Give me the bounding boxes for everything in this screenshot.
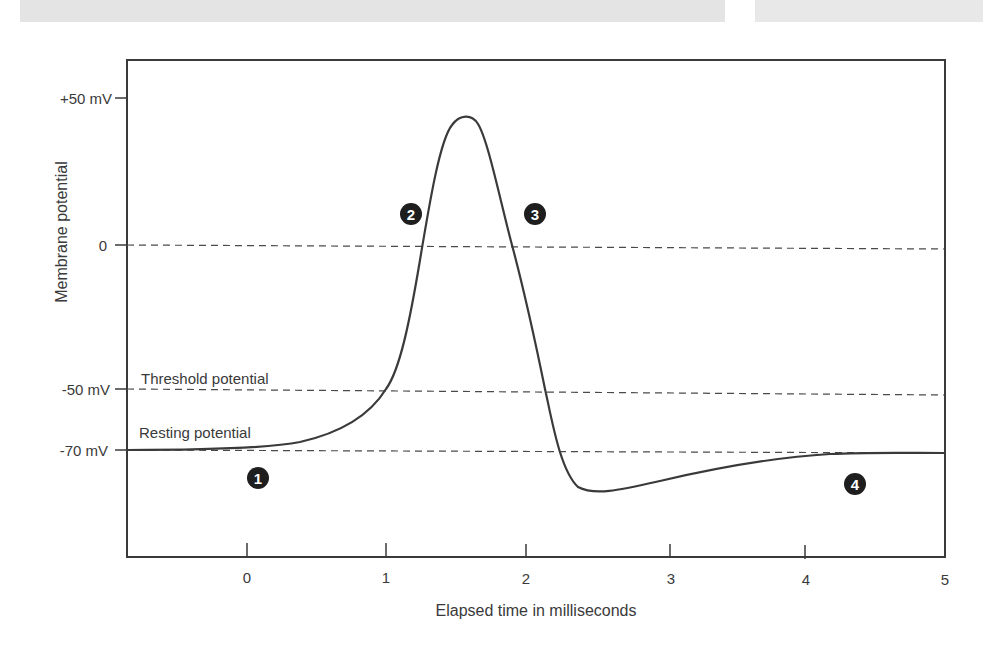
marker-3: 3 (524, 203, 546, 225)
marker-2-label: 2 (407, 206, 415, 223)
x-tick-label-3: 3 (667, 570, 675, 587)
x-tick-label-1: 1 (382, 569, 390, 586)
marker-1: 1 (247, 467, 269, 489)
marker-2: 2 (400, 203, 422, 225)
y-tick-label-minus70: -70 mV (60, 442, 108, 459)
x-tick-label-4: 4 (802, 571, 810, 588)
action-potential-chart: +50 mV 0 -50 mV -70 mV 0 1 2 3 4 5 Elaps… (0, 0, 983, 648)
y-tick-label-zero: 0 (99, 237, 107, 254)
zero-line (127, 245, 945, 249)
threshold-label: Threshold potential (141, 370, 269, 387)
threshold-line (127, 389, 945, 395)
x-tick-label-2: 2 (522, 570, 530, 587)
marker-4: 4 (844, 473, 866, 495)
resting-line (127, 450, 945, 453)
marker-3-label: 3 (531, 206, 539, 223)
marker-1-label: 1 (254, 470, 262, 487)
y-tick-label-plus50: +50 mV (60, 90, 112, 107)
y-tick-label-minus50: -50 mV (62, 381, 110, 398)
y-axis-title: Membrane potential (53, 161, 70, 302)
x-tick-label-0: 0 (243, 569, 251, 586)
x-tick-label-5: 5 (941, 571, 949, 588)
marker-4-label: 4 (851, 476, 860, 493)
x-axis-title: Elapsed time in milliseconds (436, 602, 637, 619)
resting-label: Resting potential (139, 424, 251, 441)
